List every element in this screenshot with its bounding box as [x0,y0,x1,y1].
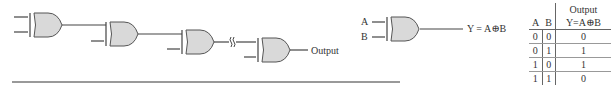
cell-a: 0 [529,44,542,58]
truth-table-row: 1 1 0 [529,72,611,86]
cell-b: 1 [542,72,555,86]
xor-expression: Y = A⊕B [467,24,506,34]
truth-table-row: 0 0 0 [529,30,611,44]
truth-table-col-y: Y=A⊕B [555,16,611,30]
input-b-label: B [361,32,368,42]
cell-a: 0 [529,30,542,44]
truth-table-col-a: A [529,16,542,30]
cell-y: 1 [555,44,611,58]
truth-table-output-header: Output [555,3,611,16]
cascade-output-label: Output [311,46,339,56]
truth-table-row: 1 0 1 [529,58,611,72]
cell-y: 0 [555,72,611,86]
xor-gate-1 [14,13,106,37]
cell-a: 1 [529,58,542,72]
xor-diagram [0,0,611,92]
cell-y: 1 [555,58,611,72]
cell-b: 1 [542,44,555,58]
truth-table-row: 0 1 1 [529,44,611,58]
truth-table-col-b: B [542,16,555,30]
cell-b: 0 [542,30,555,44]
truth-table: Output A B Y=A⊕B 0 0 0 0 1 1 1 0 1 1 1 0 [529,3,611,85]
xor-gate-single [372,17,463,41]
cell-a: 1 [529,72,542,86]
cell-y: 0 [555,30,611,44]
cell-b: 0 [542,58,555,72]
break-icon [230,37,232,47]
input-a-label: A [361,17,368,27]
